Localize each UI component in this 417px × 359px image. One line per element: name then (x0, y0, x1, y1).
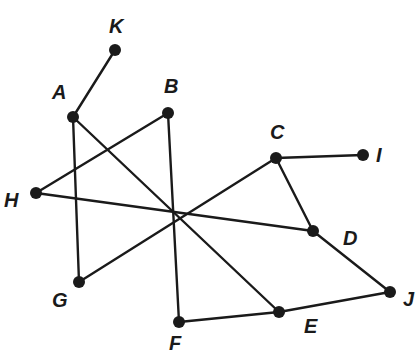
edge-e-j (279, 292, 390, 312)
node-label-i: I (376, 144, 382, 166)
node-a (67, 111, 79, 123)
node-k (109, 44, 121, 56)
node-label-f: F (169, 332, 182, 354)
node-label-e: E (304, 315, 318, 337)
labels-group: KABCIHDGFEJ (4, 15, 415, 354)
edge-f-e (179, 312, 279, 322)
node-g (73, 276, 85, 288)
node-f (173, 316, 185, 328)
node-d (307, 225, 319, 237)
node-label-b: B (164, 75, 178, 97)
node-b (162, 107, 174, 119)
edge-c-i (276, 155, 363, 158)
node-c (270, 152, 282, 164)
node-label-h: H (4, 189, 19, 211)
node-j (384, 286, 396, 298)
graph-diagram: KABCIHDGFEJ (0, 0, 417, 359)
node-e (273, 306, 285, 318)
edge-c-g (79, 158, 276, 282)
edges-group (36, 50, 390, 322)
nodes-group (30, 44, 396, 328)
node-label-a: A (51, 81, 66, 103)
node-label-c: C (270, 121, 285, 143)
node-h (30, 187, 42, 199)
edge-c-d (276, 158, 313, 231)
node-label-g: G (52, 289, 68, 311)
edge-k-a (73, 50, 115, 117)
node-label-d: D (343, 227, 357, 249)
node-i (357, 149, 369, 161)
node-label-k: K (109, 15, 125, 37)
node-label-j: J (403, 288, 415, 310)
edge-b-h (36, 113, 168, 193)
edge-b-f (168, 113, 179, 322)
